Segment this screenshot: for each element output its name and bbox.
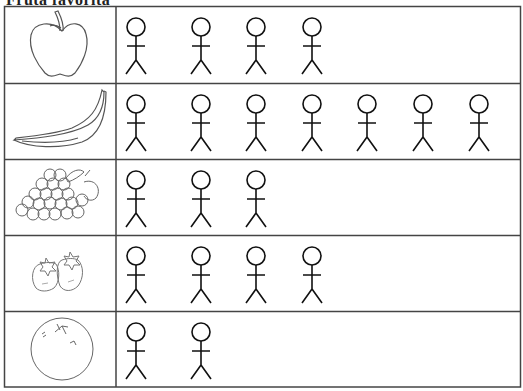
stick-figure-icon (246, 95, 266, 151)
pictograph (0, 0, 523, 391)
stick-figures (126, 18, 489, 379)
stick-figure-icon (191, 171, 211, 227)
grapes-icon (16, 169, 98, 220)
stick-figure-icon (126, 18, 146, 74)
stick-figure-icon (191, 323, 211, 379)
stick-figure-icon (126, 323, 146, 379)
stick-figure-icon (191, 18, 211, 74)
stick-figure-icon (126, 247, 146, 303)
banana-icon (14, 90, 106, 147)
stick-figure-icon (191, 247, 211, 303)
stick-figure-icon (126, 95, 146, 151)
strawberry-icon (33, 252, 83, 291)
stick-figure-icon (246, 18, 266, 74)
orange-icon (31, 318, 93, 380)
table-grid (5, 7, 521, 388)
stick-figure-icon (246, 171, 266, 227)
stick-figure-icon (357, 95, 377, 151)
stick-figure-icon (469, 95, 489, 151)
stick-figure-icon (302, 18, 322, 74)
stick-figure-icon (302, 95, 322, 151)
stick-figure-icon (413, 95, 433, 151)
stick-figure-icon (246, 247, 266, 303)
stick-figure-icon (191, 95, 211, 151)
stick-figure-icon (126, 171, 146, 227)
apple-icon (30, 11, 87, 76)
stick-figure-icon (302, 247, 322, 303)
